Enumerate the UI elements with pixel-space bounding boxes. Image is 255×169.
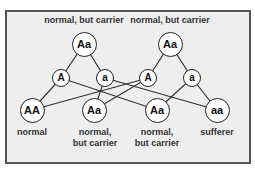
offspring-4-label-line1: sufferer xyxy=(200,127,234,138)
gamete-1-node: A xyxy=(52,69,70,87)
parent-1-node: Aa xyxy=(72,32,97,57)
offspring-3-label-line2: but carrier xyxy=(135,138,180,149)
parent-2-label: normal, but carrier xyxy=(130,15,210,26)
offspring-1-node: AA xyxy=(20,98,45,123)
connection-lines xyxy=(0,0,255,169)
gamete-4-node: a xyxy=(183,69,201,87)
offspring-2-label: normal, but carrier xyxy=(73,127,118,149)
genetic-cross-diagram: normal, but carrier normal, but carrier … xyxy=(0,0,255,169)
gamete-3-node: A xyxy=(139,69,157,87)
offspring-2-label-line2: but carrier xyxy=(73,138,118,149)
parent-2-node: Aa xyxy=(158,32,183,57)
offspring-4-node: aa xyxy=(205,98,230,123)
offspring-4-label: sufferer xyxy=(200,127,234,138)
gamete-2-node: a xyxy=(96,69,114,87)
offspring-3-label-line1: normal, xyxy=(135,127,180,138)
offspring-1-label: normal xyxy=(17,127,47,138)
parent-1-label: normal, but carrier xyxy=(44,15,124,26)
offspring-2-label-line1: normal, xyxy=(73,127,118,138)
offspring-1-label-line1: normal xyxy=(17,127,47,138)
offspring-3-label: normal, but carrier xyxy=(135,127,180,149)
offspring-2-node: Aa xyxy=(82,98,107,123)
offspring-3-node: Aa xyxy=(145,98,170,123)
